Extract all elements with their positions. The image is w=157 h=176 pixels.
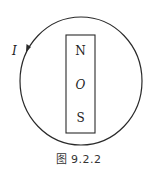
magnet-north-label: N bbox=[75, 44, 86, 58]
current-label: I bbox=[11, 44, 17, 58]
magnet-south-label: S bbox=[76, 111, 84, 125]
magnet-center-label: O bbox=[76, 78, 86, 92]
figure-caption: 图 9.2.2 bbox=[0, 150, 157, 166]
